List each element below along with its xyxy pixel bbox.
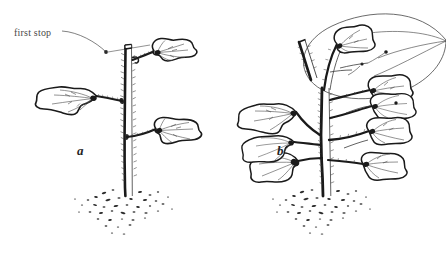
panel-b-leaf-right-mid [370, 94, 416, 120]
panel-label-a: a [77, 143, 84, 159]
panel-b-leaf-top-center [334, 25, 375, 53]
panel-a-plant [35, 38, 201, 234]
panel-a-soil [74, 189, 173, 234]
panel-a-leaf-lower-right [127, 117, 202, 143]
panel-a-main-stem [125, 44, 133, 196]
panel-b-leaf-right-lower-mid [367, 118, 412, 145]
first-stop-label: first stop [14, 27, 51, 38]
plant-illustration-canvas [0, 0, 446, 254]
panel-a-stem-hairs [120, 53, 137, 181]
panel-label-b: b [277, 143, 284, 159]
panel-a-leaf-upper-right [133, 38, 197, 61]
panel-a-leaf-mid-left [35, 87, 122, 115]
panel-b-cut-stump [298, 40, 317, 81]
panel-b-leaf-right-lowest [361, 152, 407, 180]
panel-b-main-stem [318, 88, 335, 196]
first-stop-leader-line [62, 31, 150, 52]
pruning-figure: first stop a b [0, 0, 446, 254]
panel-b-left-branch [294, 112, 322, 161]
panel-a-nodes [119, 57, 139, 140]
panel-b-soil [272, 189, 371, 234]
first-stop-leader-dot [104, 50, 108, 54]
panel-b-inner-twigs [330, 63, 370, 148]
panel-b-leaf-upper-left [237, 104, 297, 134]
panel-b-plant [237, 14, 446, 235]
